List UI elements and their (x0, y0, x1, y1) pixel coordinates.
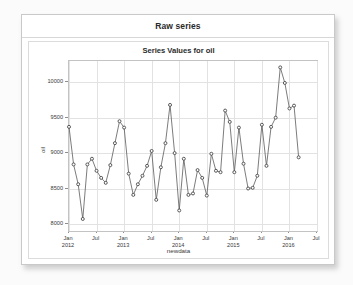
data-point (141, 174, 144, 177)
x-tick-label: Jul (147, 235, 154, 242)
data-point (228, 120, 231, 123)
chart-title: Series Values for oil (29, 46, 328, 55)
x-tick-label-month: Jul (147, 235, 154, 242)
series-oil (69, 61, 317, 231)
x-tick-label-month: Jan (172, 235, 184, 242)
x-tick-label-year: 2012 (62, 242, 74, 249)
x-tick-label-year: 2013 (117, 242, 129, 249)
window-title: Raw series (22, 15, 334, 38)
data-point (224, 109, 227, 112)
x-tick-label-month: Jan (62, 235, 74, 242)
data-point (155, 198, 158, 201)
data-point (187, 193, 190, 196)
page-background: Raw series Series Values for oil oil new… (0, 0, 353, 285)
x-tick-label: Jan2012 (62, 235, 74, 249)
data-point (95, 169, 98, 172)
data-point (109, 164, 112, 167)
y-tick-label: 8500 (51, 185, 63, 191)
data-point (247, 187, 250, 190)
data-point (136, 183, 139, 186)
data-point (132, 193, 135, 196)
data-point (265, 164, 268, 167)
data-point (118, 120, 121, 123)
data-point (100, 176, 103, 179)
data-point (90, 157, 93, 160)
data-point (293, 104, 296, 107)
y-axis-label: oil (40, 147, 46, 153)
plot-window: Raw series Series Values for oil oil new… (21, 14, 335, 265)
data-point (279, 66, 282, 69)
data-point (251, 186, 254, 189)
data-point (127, 172, 130, 175)
data-point (256, 174, 259, 177)
data-point (159, 166, 162, 169)
data-point (297, 156, 300, 159)
data-point (77, 183, 80, 186)
data-point (113, 142, 116, 145)
y-tick-label: 9500 (51, 114, 63, 120)
data-point (288, 107, 291, 110)
data-point (173, 152, 176, 155)
data-point (182, 157, 185, 160)
data-point (178, 209, 181, 212)
x-tick-label-year: 2014 (172, 242, 184, 249)
data-point (214, 169, 217, 172)
data-point (86, 163, 89, 166)
data-point (270, 125, 273, 128)
data-point (283, 81, 286, 84)
data-point (104, 181, 107, 184)
x-tick-label-month: Jul (202, 235, 209, 242)
chart-panel: Series Values for oil oil newdata 800085… (28, 41, 329, 259)
data-point (219, 171, 222, 174)
data-point (150, 149, 153, 152)
x-tick-label-month: Jul (257, 235, 264, 242)
data-point (192, 192, 195, 195)
y-tick-label: 9000 (51, 149, 63, 155)
data-point (72, 163, 75, 166)
x-tick-label: Jan2016 (282, 235, 294, 249)
series-line (69, 67, 299, 219)
x-tick-label: Jul (202, 235, 209, 242)
data-point (205, 194, 208, 197)
data-point (260, 123, 263, 126)
data-point (237, 126, 240, 129)
gridline-vertical (317, 61, 318, 231)
data-point (146, 164, 149, 167)
x-tick-label: Jul (92, 235, 99, 242)
x-tick-label-year: 2016 (282, 242, 294, 249)
data-point (233, 171, 236, 174)
data-point (196, 169, 199, 172)
x-tick-label-month: Jan (227, 235, 239, 242)
x-tick-label: Jan2015 (227, 235, 239, 249)
x-tick-label-month: Jan (282, 235, 294, 242)
data-point (164, 142, 167, 145)
data-point (274, 116, 277, 119)
x-tick-label-month: Jul (92, 235, 99, 242)
y-tick-label: 10000 (47, 78, 63, 84)
x-tick-label: Jul (312, 235, 319, 242)
x-tick-label-month: Jul (312, 235, 319, 242)
data-point (123, 126, 126, 129)
x-tick-label: Jan2014 (172, 235, 184, 249)
data-point (81, 217, 84, 220)
data-point (169, 103, 172, 106)
plot-area (68, 60, 318, 232)
y-tick-label: 8000 (51, 220, 63, 226)
x-tick-label-month: Jan (117, 235, 129, 242)
x-tick-label: Jul (257, 235, 264, 242)
data-point (242, 162, 245, 165)
x-tick-label-year: 2015 (227, 242, 239, 249)
x-tick-label: Jan2013 (117, 235, 129, 249)
data-point (210, 152, 213, 155)
data-point (68, 125, 71, 128)
data-point (201, 176, 204, 179)
